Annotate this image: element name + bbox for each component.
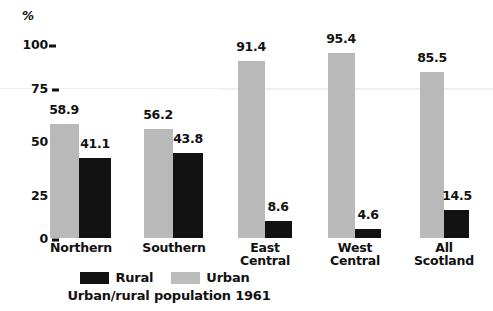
y-tick-label-25: 25 [0, 188, 48, 203]
legend-item-urban: Urban [171, 270, 249, 285]
legend-label-urban: Urban [206, 270, 249, 285]
y-tick-label-0: 0 [0, 231, 48, 246]
bar-value-west-central-rural: 4.6 [357, 207, 378, 222]
bar-all-scotland-rural [444, 210, 469, 238]
bar-value-all-scotland-urban: 85.5 [417, 50, 447, 65]
bar-value-northern-urban: 58.9 [49, 102, 79, 117]
category-label-all-scotland: AllScotland [414, 241, 474, 267]
bar-northern-urban [50, 124, 79, 238]
chart-caption: Urban/rural population 1961 [0, 288, 338, 303]
bar-west-central-urban [328, 53, 355, 238]
bar-value-northern-rural: 41.1 [80, 136, 110, 151]
bar-east-central-urban [238, 61, 265, 238]
y-tick-mark-100 [49, 45, 56, 48]
category-label-west-central: WestCentral [330, 241, 380, 267]
legend-item-rural: Rural [80, 270, 153, 285]
legend-label-rural: Rural [115, 270, 153, 285]
bar-value-southern-urban: 56.2 [143, 107, 173, 122]
category-label-west-central-line2: Central [330, 253, 380, 268]
bar-southern-rural [173, 153, 203, 238]
legend-swatch-urban-icon [171, 272, 200, 284]
y-tick-label-50: 50 [0, 134, 48, 149]
bar-northern-rural [79, 158, 111, 238]
bar-value-all-scotland-rural: 14.5 [442, 188, 472, 203]
y-axis-unit-label: % [22, 9, 34, 23]
bar-west-central-rural [355, 229, 381, 238]
y-tick-label-100: 100 [0, 37, 48, 52]
bar-east-central-rural [265, 221, 292, 238]
category-label-east-central: EastCentral [240, 241, 290, 267]
bar-all-scotland-urban [420, 72, 444, 238]
bar-southern-urban [144, 129, 173, 238]
bar-value-east-central-rural: 8.6 [267, 199, 288, 214]
plot-area: % 100 75 50 25 0 58.9 41.1 Northern 56.2… [0, 0, 493, 311]
bar-chart: % 100 75 50 25 0 58.9 41.1 Northern 56.2… [0, 0, 493, 311]
category-label-all-scotland-line2: Scotland [414, 253, 474, 268]
bar-value-southern-rural: 43.8 [173, 131, 203, 146]
y-tick-label-75: 75 [0, 81, 48, 96]
legend-swatch-rural-icon [80, 272, 109, 284]
category-label-southern: Southern [142, 241, 205, 254]
category-label-east-central-line2: Central [240, 253, 290, 268]
bar-value-west-central-urban: 95.4 [326, 31, 356, 46]
bar-value-east-central-urban: 91.4 [236, 39, 266, 54]
chart-legend: Rural Urban [0, 270, 330, 285]
y-tick-mark-75 [52, 89, 59, 92]
category-label-northern: Northern [50, 241, 112, 254]
